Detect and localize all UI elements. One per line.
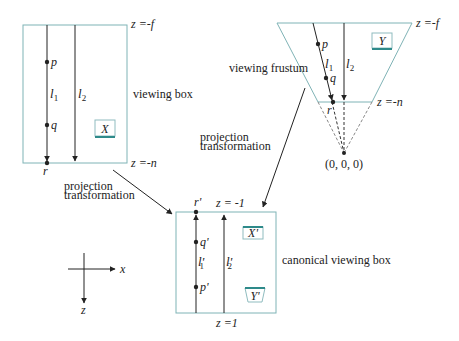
frustum-label-l2: l2: [346, 56, 354, 73]
label-l2-prime: l'2: [226, 254, 233, 271]
frustum-label-p: p: [321, 37, 328, 51]
label-l2: l2: [78, 86, 86, 103]
label-object-y-prime: Y': [250, 289, 260, 303]
axes-indicator: x z: [68, 253, 126, 317]
label-projection-left-2: transformation: [64, 188, 135, 202]
frustum-point-p: [316, 42, 320, 46]
label-x-axis: x: [119, 262, 126, 276]
projection-arrows: projection transformation projection tra…: [64, 88, 305, 214]
point-q-prime: [194, 240, 198, 244]
frustum-label-far-plane: z =-f: [415, 16, 441, 30]
point-p-prime: [194, 285, 198, 289]
label-object-x: X: [100, 122, 109, 136]
projection-diagram: p q r l1 l2 X z =-f z =-n viewing box p …: [0, 0, 459, 341]
viewing-box-group: p q r l1 l2 X z =-f z =-n viewing box: [23, 17, 193, 178]
label-bottom-plane: z =1: [215, 316, 238, 330]
label-z-axis: z: [80, 303, 86, 317]
label-q-prime: q': [200, 235, 209, 249]
label-r-prime: r': [194, 195, 202, 209]
point-p: [45, 60, 49, 64]
label-near-plane: z =-n: [130, 156, 157, 170]
origin-label: (0, 0, 0): [325, 157, 363, 171]
label-far-plane: z =-f: [130, 17, 156, 31]
point-q: [45, 123, 49, 127]
frustum-label-near-plane: z =-n: [376, 95, 403, 109]
label-projection-right-2: transformation: [200, 139, 271, 153]
frustum-label-r: r: [327, 103, 332, 117]
canonical-box-group: r' q' p' l'1 l'2 X' Y' z = -1 z =1 canon…: [176, 195, 391, 330]
label-viewing-frustum: viewing frustum: [229, 61, 309, 75]
label-p-prime: p': [199, 280, 209, 294]
frustum-point-q: [324, 76, 328, 80]
origin-point: [342, 151, 346, 155]
label-q: q: [51, 118, 57, 132]
label-r: r: [43, 164, 48, 178]
label-canonical-viewing-box: canonical viewing box: [282, 253, 391, 267]
label-top-plane: z = -1: [215, 196, 245, 210]
label-l1-prime: l'1: [198, 254, 205, 271]
label-viewing-box: viewing box: [133, 87, 193, 101]
point-r-prime: [194, 210, 198, 214]
label-object-x-prime: X': [247, 226, 258, 240]
label-l1: l1: [50, 86, 58, 103]
frustum-label-q: q: [330, 71, 336, 85]
line-l1-extension: [332, 102, 344, 153]
label-p: p: [50, 55, 57, 69]
frustum-extension-right: [344, 102, 372, 153]
frustum-line-l1: [313, 23, 332, 100]
frustum-label-l1: l1: [325, 56, 333, 73]
